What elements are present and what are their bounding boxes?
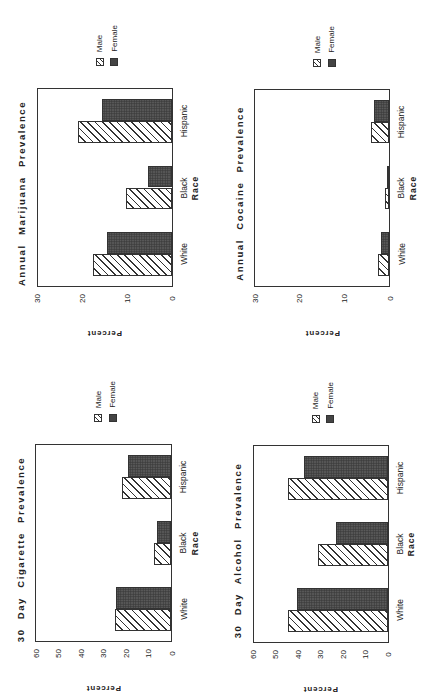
chart-alcohol: WhiteBlackRaceHispanic0102030405060Perce…	[0, 0, 430, 695]
x-axis-label: Race	[406, 532, 416, 556]
legend-label-female: Female	[109, 25, 118, 52]
tick-label: 10	[340, 294, 349, 303]
category-label-black: Black	[179, 177, 189, 198]
tick-label: 40	[77, 649, 86, 658]
category-label-white: White	[178, 598, 188, 620]
legend-label-female: Female	[108, 381, 117, 408]
plot-area	[253, 445, 389, 643]
x-axis-label: Race	[190, 531, 200, 555]
chart-cocaine: WhiteBlackRaceHispanic0102030PercentAnnu…	[0, 0, 430, 695]
tick-label: 20	[339, 650, 348, 659]
chart-title: Annual Cocaine Prevalence	[233, 106, 244, 281]
chart-cigarette: WhiteBlackRaceHispanic0102030405060Perce…	[0, 0, 430, 695]
tick-label: 20	[295, 294, 304, 303]
tick-label: 50	[271, 650, 280, 659]
tick-label: 10	[361, 650, 370, 659]
tick-label: 30	[33, 294, 42, 303]
bar-female-hispanic	[374, 100, 389, 122]
bar-male-black	[318, 544, 388, 566]
bar-male-black	[154, 543, 171, 565]
legend-swatch-female	[326, 415, 334, 423]
tick-label: 20	[78, 294, 87, 303]
bar-female-black	[157, 521, 172, 543]
category-label-white: White	[395, 599, 405, 621]
tick-label: 0	[168, 296, 177, 300]
bar-female-white	[116, 587, 171, 609]
bar-male-black	[385, 188, 389, 210]
tick-label: 30	[316, 650, 325, 659]
category-label-hispanic: Hispanic	[395, 462, 405, 495]
chart-title: 30 Day Alcohol Prevalence	[232, 462, 243, 638]
legend-swatch-male	[96, 58, 104, 66]
category-label-black: Black	[395, 534, 405, 555]
category-label-hispanic: Hispanic	[178, 461, 188, 494]
legend-label-male: Male	[95, 35, 104, 52]
legend-label-male: Male	[94, 391, 103, 408]
bar-female-hispanic	[102, 99, 172, 121]
legend-label-female: Female	[327, 26, 336, 53]
legend-swatch-female	[110, 58, 118, 66]
category-label-black: Black	[396, 177, 406, 198]
legend-swatch-male	[313, 59, 321, 67]
bar-male-hispanic	[122, 477, 172, 499]
tick-label: 0	[385, 296, 394, 300]
tick-label: 10	[123, 294, 132, 303]
category-label-white: White	[179, 243, 189, 265]
plot-area	[254, 89, 390, 288]
y-axis-label: Percent	[303, 685, 338, 694]
tick-label: 30	[99, 649, 108, 658]
y-axis-label: Percent	[87, 329, 122, 338]
category-label-black: Black	[178, 533, 188, 554]
category-label-white: White	[396, 243, 406, 265]
plot-area	[35, 444, 172, 642]
plot-area	[37, 88, 173, 287]
bar-female-black	[387, 166, 390, 188]
tick-label: 0	[384, 652, 393, 656]
bar-female-black	[336, 522, 388, 544]
tick-label: 0	[167, 651, 176, 655]
legend-swatch-male	[312, 415, 320, 423]
chart-title: Annual Marijuana Prevalence	[16, 101, 27, 286]
x-axis-label: Race	[408, 176, 418, 200]
bar-male-hispanic	[288, 478, 388, 500]
tick-label: 40	[294, 650, 303, 659]
bar-female-hispanic	[128, 455, 171, 477]
tick-label: 20	[122, 649, 131, 658]
bar-female-white	[107, 232, 172, 254]
legend-swatch-male	[94, 414, 102, 422]
legend-swatch-female	[328, 59, 336, 67]
bar-male-white	[115, 609, 172, 631]
legend-label-male: Male	[313, 35, 322, 52]
bar-female-black	[148, 166, 172, 188]
bar-male-black	[126, 188, 172, 210]
bar-female-white	[381, 232, 390, 254]
y-axis-label: Percent	[86, 684, 121, 693]
x-axis-label: Race	[190, 175, 200, 199]
tick-label: 30	[250, 294, 259, 303]
tick-label: 10	[144, 649, 153, 658]
legend-label-male: Male	[311, 392, 320, 409]
chart-title: 30 Day Cigarette Prevalence	[15, 456, 26, 641]
bar-male-white	[378, 254, 389, 276]
chart-marijuana: WhiteBlackRaceHispanic0102030PercentAnnu…	[0, 0, 430, 695]
tick-label: 50	[54, 649, 63, 658]
bar-male-hispanic	[78, 121, 172, 143]
y-axis-label: Percent	[305, 329, 340, 338]
bar-male-hispanic	[371, 122, 389, 144]
bar-female-hispanic	[304, 456, 388, 478]
category-label-hispanic: Hispanic	[396, 105, 406, 138]
tick-label: 60	[249, 650, 258, 659]
tick-label: 60	[31, 649, 40, 658]
bar-female-white	[297, 588, 388, 610]
category-label-hispanic: Hispanic	[179, 105, 189, 138]
bar-male-white	[288, 610, 388, 632]
legend-label-female: Female	[325, 382, 334, 409]
legend-swatch-female	[109, 414, 117, 422]
bar-male-white	[93, 254, 172, 276]
